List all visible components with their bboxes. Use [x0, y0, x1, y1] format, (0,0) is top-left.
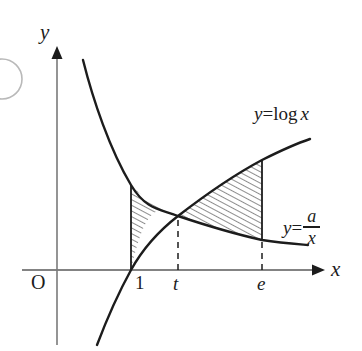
curve-label-log-func: log — [273, 104, 297, 123]
curve-label-log-y: y — [254, 104, 262, 123]
x-tick-label-t: t — [173, 274, 178, 293]
y-axis-label: y — [40, 22, 49, 43]
figure-canvas — [0, 0, 362, 351]
x-tick-label-e: e — [257, 274, 265, 293]
origin-label: O — [31, 272, 45, 292]
problem-number-circle-icon — [0, 59, 22, 99]
x-axis-label: x — [331, 259, 340, 280]
y-axis-arrowhead — [52, 46, 63, 59]
curve-label-log: y=logx — [254, 104, 309, 123]
fraction-numerator: a — [304, 207, 319, 226]
math-figure: y x O 1 t e y=logx y= a x — [0, 0, 362, 351]
curve-label-aox-y: y — [283, 218, 291, 237]
x-tick-label-1: 1 — [135, 273, 145, 292]
curve-label-a-over-x: y= a x — [283, 208, 320, 248]
curve-label-aox-equals: = — [291, 218, 302, 237]
fraction-a-over-x: a x — [303, 207, 320, 247]
x-axis-arrowhead — [312, 265, 325, 276]
fraction-denominator: x — [305, 228, 319, 247]
curve-label-log-arg: x — [300, 104, 308, 123]
curve-label-log-equals: = — [262, 104, 273, 123]
